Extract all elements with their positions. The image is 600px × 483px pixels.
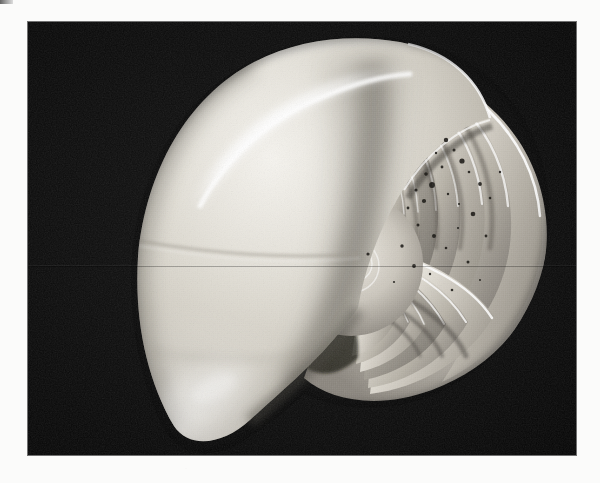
photo-caption (28, 458, 576, 478)
film-grain-overlay (28, 22, 576, 455)
scanned-page (0, 0, 600, 483)
nautilus-photograph[interactable] (28, 22, 576, 455)
nautilus-shell-illustration (28, 22, 576, 455)
corner-smudge-mark (0, 0, 13, 4)
